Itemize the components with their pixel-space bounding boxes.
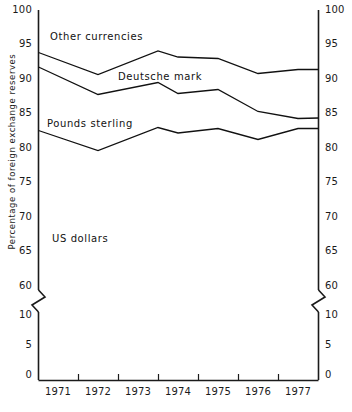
y-tick-right-85: 85 bbox=[325, 108, 352, 118]
x-label-1976: 1976 bbox=[238, 387, 278, 397]
x-label-1971: 1971 bbox=[38, 387, 78, 397]
y-tick-left-70: 70 bbox=[2, 212, 32, 222]
y-tick-left-75: 75 bbox=[2, 177, 32, 187]
y-tick-right-80: 80 bbox=[325, 143, 352, 153]
y-tick-right-95: 95 bbox=[325, 39, 352, 49]
y-tick-right-0: 0 bbox=[325, 370, 352, 380]
y-tick-right-10: 10 bbox=[325, 310, 352, 320]
annotation-other-currencies: Other currencies bbox=[50, 31, 143, 42]
chart-canvas bbox=[0, 0, 352, 412]
y-tick-right-65: 65 bbox=[325, 246, 352, 256]
y-tick-left-90: 90 bbox=[2, 74, 32, 84]
series-line-gbp bbox=[39, 128, 319, 151]
y-tick-left-10: 10 bbox=[2, 310, 32, 320]
x-label-1977: 1977 bbox=[278, 387, 318, 397]
y-tick-right-90: 90 bbox=[325, 74, 352, 84]
x-label-1972: 1972 bbox=[78, 387, 118, 397]
y-tick-left-85: 85 bbox=[2, 108, 32, 118]
chart-root: Percentage of foreign exchange reserves … bbox=[0, 0, 352, 412]
left-axis-break bbox=[32, 290, 45, 312]
y-tick-left-0: 0 bbox=[2, 370, 32, 380]
y-tick-right-60: 60 bbox=[325, 281, 352, 291]
annotation-pounds-sterling: Pounds sterling bbox=[47, 118, 133, 129]
y-tick-left-60: 60 bbox=[2, 281, 32, 291]
x-label-1975: 1975 bbox=[198, 387, 238, 397]
y-tick-right-5: 5 bbox=[325, 340, 352, 350]
x-label-1974: 1974 bbox=[158, 387, 198, 397]
y-tick-left-5: 5 bbox=[2, 340, 32, 350]
y-tick-right-75: 75 bbox=[325, 177, 352, 187]
y-tick-left-80: 80 bbox=[2, 143, 32, 153]
y-tick-left-95: 95 bbox=[2, 39, 32, 49]
annotation-deutsche-mark: Deutsche mark bbox=[118, 71, 202, 82]
y-tick-right-70: 70 bbox=[325, 212, 352, 222]
y-tick-right-100: 100 bbox=[325, 5, 352, 15]
y-tick-left-65: 65 bbox=[2, 246, 32, 256]
right-axis-break bbox=[312, 290, 325, 312]
x-label-1973: 1973 bbox=[118, 387, 158, 397]
y-tick-left-100: 100 bbox=[2, 5, 32, 15]
annotation-us-dollars: US dollars bbox=[52, 233, 108, 244]
